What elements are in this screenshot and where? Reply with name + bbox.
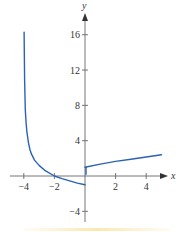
axes	[10, 20, 163, 222]
y-tick-label: 4	[75, 135, 80, 146]
curves	[24, 32, 161, 185]
right-branch-curve	[85, 155, 162, 167]
x-tick-label: 2	[113, 181, 118, 192]
bottom-divider	[24, 228, 170, 231]
y-tick-label: −4	[69, 206, 80, 217]
y-tick-label: 8	[75, 100, 80, 111]
y-axis-arrow-icon	[82, 13, 88, 21]
y-tick-labels: 161284−4	[69, 29, 80, 217]
y-axis-label: y	[81, 0, 87, 11]
y-tick-label: 16	[70, 29, 80, 40]
x-tick-label: 4	[144, 181, 149, 192]
x-axis-label: x	[170, 170, 176, 181]
x-tick-labels: −4−224	[18, 181, 148, 192]
x-axis-arrow-icon	[160, 173, 168, 179]
x-tick-label: −2	[49, 181, 60, 192]
x-tick-label: −4	[18, 181, 29, 192]
function-plot: −4−224 161284−4 x y	[0, 0, 182, 232]
y-tick-label: 12	[70, 65, 80, 76]
